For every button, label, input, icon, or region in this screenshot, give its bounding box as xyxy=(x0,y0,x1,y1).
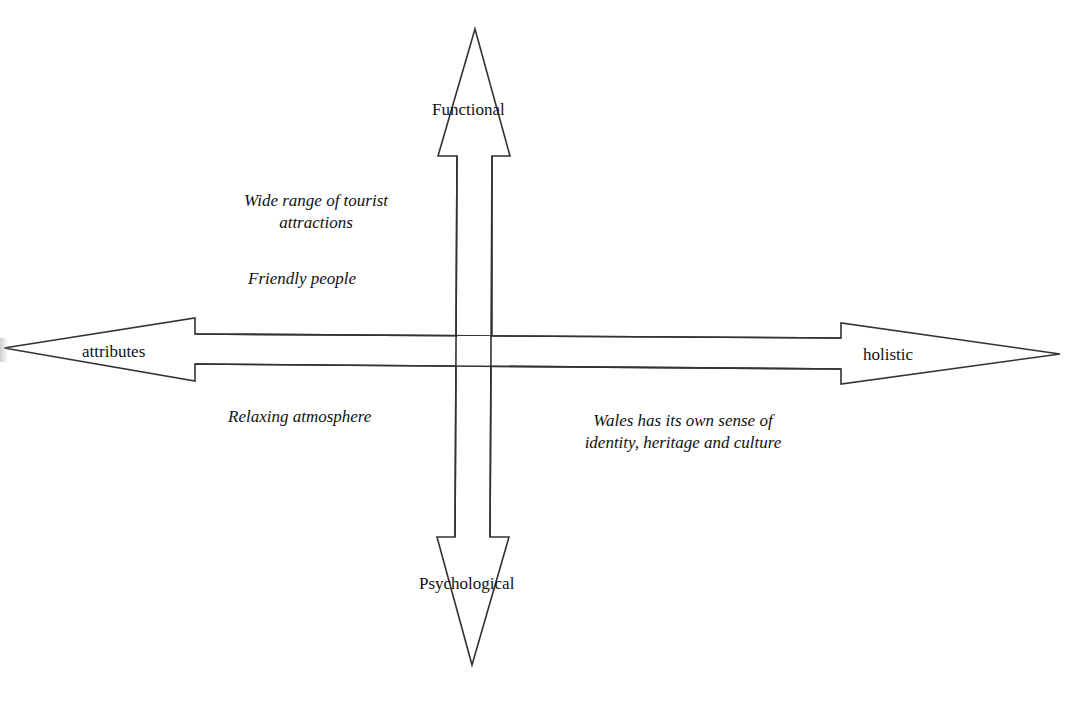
axis-label-holistic: holistic xyxy=(863,345,913,365)
axis-label-functional: Functional xyxy=(432,100,505,120)
attribute-line-1: Wide range of tourist xyxy=(218,190,414,212)
diagram-canvas xyxy=(0,0,1091,708)
vertical-shaft-left-line-top xyxy=(456,156,457,335)
axis-label-psychological: Psychological xyxy=(419,574,514,594)
crossing-interior xyxy=(458,336,490,365)
attribute-friendly-people: Friendly people xyxy=(248,268,356,290)
scan-edge-shadow xyxy=(0,338,8,362)
attribute-line-1: Wales has its own sense of xyxy=(555,410,811,432)
vertical-shaft-left-line-bottom xyxy=(455,366,456,537)
axis-label-attributes: attributes xyxy=(82,342,145,362)
attribute-wide-range-of-tourist-attractions: Wide range of tourist attractions xyxy=(218,190,414,234)
attribute-line-2: identity, heritage and culture xyxy=(555,432,811,454)
attribute-line-2: attractions xyxy=(218,212,414,234)
attribute-relaxing-atmosphere: Relaxing atmosphere xyxy=(228,406,371,428)
attribute-wales-own-identity: Wales has its own sense of identity, her… xyxy=(555,410,811,454)
vertical-shaft-right-line-bottom xyxy=(490,367,491,537)
